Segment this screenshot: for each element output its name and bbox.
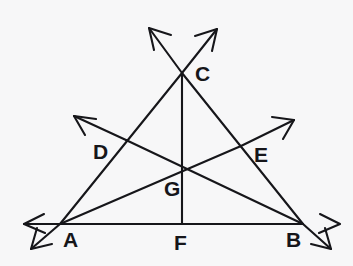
label-point-c: C: [195, 62, 210, 85]
median-bd: [126, 140, 303, 224]
label-point-f: F: [174, 231, 187, 254]
side-bc: [182, 73, 303, 224]
arrowhead-right-of-b-icon: [319, 214, 340, 233]
label-point-d: D: [93, 140, 108, 163]
triangle-medians-figure: A B C D E F G: [0, 0, 353, 266]
side-ac: [60, 73, 182, 224]
label-point-e: E: [254, 143, 268, 166]
label-point-a: A: [63, 228, 78, 251]
label-point-b: B: [286, 228, 301, 251]
arrowhead-beyond-e-icon: [272, 117, 294, 139]
median-ae: [60, 146, 241, 224]
label-point-g: G: [164, 177, 180, 200]
geometry-diagram: A B C D E F G: [0, 0, 353, 266]
